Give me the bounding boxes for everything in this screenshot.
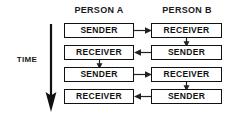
- column-header-person-b: PERSON B: [150, 5, 224, 15]
- message-arrow-row-4-leftward: [134, 92, 152, 101]
- role-label: SENDER: [168, 48, 205, 57]
- message-arrow-row-1-rightward: [134, 26, 152, 35]
- role-box-person-b-row-4[interactable]: SENDER: [151, 89, 222, 104]
- role-label: RECEIVER: [164, 70, 210, 79]
- role-label: SENDER: [168, 92, 205, 101]
- role-label: RECEIVER: [164, 26, 210, 35]
- role-label: SENDER: [80, 70, 117, 79]
- time-down-arrow-icon: [45, 24, 57, 112]
- message-arrow-row-3-rightward: [134, 70, 152, 79]
- time-axis-label: TIME: [10, 55, 44, 64]
- role-box-person-a-row-2[interactable]: RECEIVER: [64, 45, 134, 60]
- role-box-person-a-row-4[interactable]: RECEIVER: [64, 89, 134, 104]
- role-box-person-a-row-1[interactable]: SENDER: [64, 23, 134, 38]
- role-label: SENDER: [80, 26, 117, 35]
- communication-model-diagram: PERSON A PERSON B TIME SENDER RECEIVER R…: [0, 0, 232, 117]
- role-box-person-b-row-2[interactable]: SENDER: [151, 45, 222, 60]
- message-arrow-row-2-leftward: [134, 48, 152, 57]
- role-label: RECEIVER: [76, 48, 122, 57]
- role-box-person-a-row-3[interactable]: SENDER: [64, 67, 134, 82]
- column-header-person-a: PERSON A: [62, 5, 136, 15]
- role-box-person-b-row-1[interactable]: RECEIVER: [151, 23, 222, 38]
- role-box-person-b-row-3[interactable]: RECEIVER: [151, 67, 222, 82]
- role-label: RECEIVER: [76, 92, 122, 101]
